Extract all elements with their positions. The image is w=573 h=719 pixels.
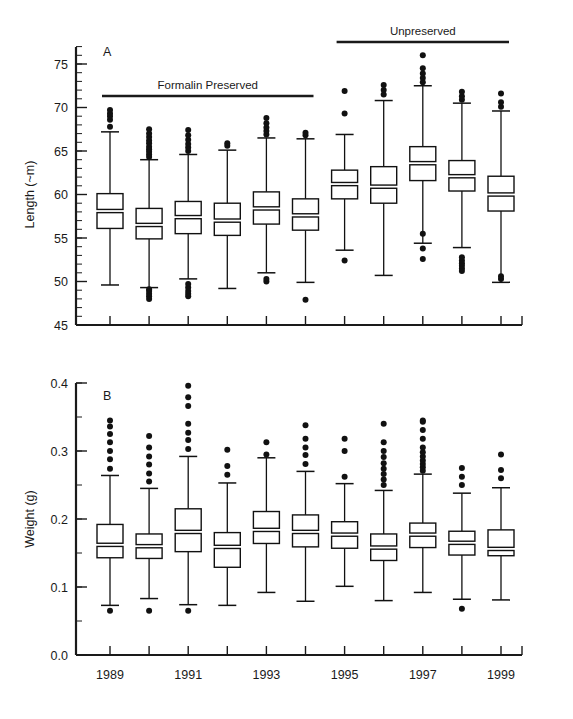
box-upper-quartile bbox=[449, 161, 475, 175]
box-lower-quartile bbox=[175, 534, 201, 552]
outlier-point bbox=[185, 132, 191, 138]
boxplot-1991 bbox=[175, 127, 201, 299]
box-lower-quartile bbox=[371, 188, 397, 203]
outlier-point bbox=[224, 447, 230, 453]
box-upper-quartile bbox=[214, 533, 240, 546]
boxplot-1998 bbox=[449, 89, 475, 274]
box-lower-quartile bbox=[136, 548, 162, 559]
boxplot-1990 bbox=[136, 433, 162, 614]
boxplot-1995 bbox=[332, 436, 358, 587]
box-upper-quartile bbox=[410, 147, 436, 162]
outlier-point bbox=[185, 608, 191, 614]
outlier-point bbox=[185, 281, 191, 287]
x-axis-tick-label: 1999 bbox=[487, 668, 515, 682]
box-lower-quartile bbox=[293, 534, 319, 547]
y-axis-tick-label: 75 bbox=[54, 58, 68, 72]
x-axis-tick-label: 1991 bbox=[174, 668, 202, 682]
boxplot-1992 bbox=[214, 140, 240, 288]
outlier-point bbox=[107, 431, 113, 437]
outlier-point bbox=[420, 52, 426, 58]
box-lower-quartile bbox=[136, 227, 162, 239]
boxplot-figure: 45505560657075Length (~m)AFormalin Prese… bbox=[0, 0, 573, 719]
box-lower-quartile bbox=[449, 178, 475, 191]
y-axis-tick-label: 0.1 bbox=[51, 581, 68, 595]
outlier-point bbox=[420, 71, 426, 77]
outlier-point bbox=[303, 445, 309, 451]
x-axis-tick-label: 1995 bbox=[331, 668, 359, 682]
outlier-point bbox=[498, 451, 504, 457]
outlier-point bbox=[420, 231, 426, 237]
outlier-point bbox=[224, 472, 230, 478]
box-upper-quartile bbox=[97, 524, 123, 543]
outlier-point bbox=[107, 417, 113, 423]
panel-letter: B bbox=[103, 389, 111, 403]
outlier-point bbox=[381, 87, 387, 93]
box-lower-quartile bbox=[175, 219, 201, 234]
outlier-point bbox=[459, 465, 465, 471]
outlier-point bbox=[381, 439, 387, 445]
outlier-point bbox=[185, 394, 191, 400]
box-upper-quartile bbox=[214, 203, 240, 219]
outlier-point bbox=[459, 606, 465, 612]
y-axis-title: Weight (g) bbox=[23, 490, 37, 547]
x-axis-tick-label: 1997 bbox=[409, 668, 437, 682]
box-upper-quartile bbox=[371, 534, 397, 546]
boxplot-1993 bbox=[253, 439, 279, 592]
box-lower-quartile bbox=[488, 196, 514, 211]
outlier-point bbox=[381, 466, 387, 472]
y-axis-tick-label: 45 bbox=[54, 319, 68, 333]
outlier-point bbox=[107, 448, 113, 454]
outlier-point bbox=[107, 439, 113, 445]
y-axis-tick-label: 50 bbox=[54, 275, 68, 289]
outlier-point bbox=[185, 421, 191, 427]
box-upper-quartile bbox=[488, 530, 514, 547]
outlier-point bbox=[146, 479, 152, 485]
y-axis-tick-label: 0.4 bbox=[51, 377, 68, 391]
outlier-point bbox=[303, 130, 309, 136]
outlier-point bbox=[303, 452, 309, 458]
outlier-point bbox=[498, 91, 504, 97]
outlier-point bbox=[342, 474, 348, 480]
box-upper-quartile bbox=[293, 199, 319, 214]
outlier-point bbox=[107, 466, 113, 472]
outlier-point bbox=[420, 445, 426, 451]
outlier-point bbox=[303, 422, 309, 428]
boxplot-1997 bbox=[410, 417, 436, 592]
panel-a: 45505560657075Length (~m)AFormalin Prese… bbox=[23, 25, 522, 333]
outlier-point bbox=[381, 82, 387, 88]
box-upper-quartile bbox=[293, 515, 319, 530]
y-axis-tick-label: 60 bbox=[54, 188, 68, 202]
boxplot-1999 bbox=[488, 91, 514, 283]
boxplot-1989 bbox=[97, 107, 123, 285]
outlier-point bbox=[185, 127, 191, 133]
outlier-point bbox=[342, 88, 348, 94]
group-label-unpreserved: Unpreserved bbox=[390, 25, 456, 37]
box-lower-quartile bbox=[332, 186, 358, 199]
outlier-point bbox=[263, 120, 269, 126]
box-lower-quartile bbox=[97, 546, 123, 557]
figure-canvas: 45505560657075Length (~m)AFormalin Prese… bbox=[0, 0, 573, 719]
box-upper-quartile bbox=[136, 534, 162, 545]
box-lower-quartile bbox=[253, 531, 279, 543]
boxplot-1996 bbox=[371, 421, 397, 601]
x-axis-tick-label: 1989 bbox=[96, 668, 124, 682]
outlier-point bbox=[146, 462, 152, 468]
outlier-point bbox=[107, 456, 113, 462]
box-upper-quartile bbox=[253, 192, 279, 207]
boxplot-1990 bbox=[136, 126, 162, 302]
outlier-point bbox=[146, 126, 152, 132]
box-lower-quartile bbox=[214, 548, 240, 567]
outlier-point bbox=[263, 115, 269, 121]
outlier-point bbox=[263, 439, 269, 445]
outlier-point bbox=[459, 89, 465, 95]
box-upper-quartile bbox=[332, 522, 358, 533]
panel-b: 0.00.10.20.30.4198919911993199519971999W… bbox=[23, 377, 522, 683]
boxplot-1994 bbox=[293, 422, 319, 601]
outlier-point bbox=[381, 460, 387, 466]
boxplot-1997 bbox=[410, 52, 436, 262]
outlier-point bbox=[420, 245, 426, 251]
box-upper-quartile bbox=[488, 176, 514, 193]
box-lower-quartile bbox=[332, 536, 358, 548]
outlier-point bbox=[185, 446, 191, 452]
outlier-point bbox=[498, 273, 504, 279]
